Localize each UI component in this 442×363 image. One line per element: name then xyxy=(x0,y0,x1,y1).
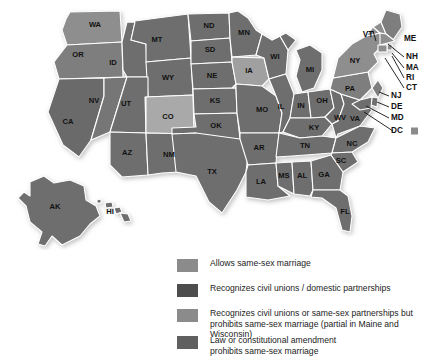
label-CO: CO xyxy=(162,112,173,121)
label-LA: LA xyxy=(256,177,267,186)
leader-RI xyxy=(392,56,404,78)
label-OK: OK xyxy=(210,121,222,130)
label-SD: SD xyxy=(205,45,216,54)
legend-swatch-civil-unions-prohibits xyxy=(177,309,198,322)
label-MN: MN xyxy=(238,28,250,37)
label-MI: MI xyxy=(306,65,314,74)
label-VA: VA xyxy=(350,114,361,123)
label-NE: NE xyxy=(207,71,218,80)
callout-NH: NH xyxy=(406,52,418,61)
label-FL: FL xyxy=(340,207,350,216)
callout-CT: CT xyxy=(406,83,417,92)
label-IN: IN xyxy=(297,101,305,110)
label-NV: NV xyxy=(89,96,100,105)
label-AL: AL xyxy=(297,171,307,180)
label-AR: AR xyxy=(254,143,265,152)
state-AK[interactable] xyxy=(18,176,100,246)
label-SC: SC xyxy=(336,156,347,165)
callout-RI: RI xyxy=(406,73,414,82)
label-UT: UT xyxy=(121,99,131,108)
leader-DE xyxy=(377,102,389,107)
label-TX: TX xyxy=(207,167,217,176)
label-NM: NM xyxy=(163,150,175,159)
legend-label-civil-unions: Recognizes civil unions / domestic partn… xyxy=(210,283,391,294)
label-HI: HI xyxy=(106,207,114,216)
label-WA: WA xyxy=(89,20,102,29)
legend-item-prohibits[interactable]: Law or constitutional amendment prohibit… xyxy=(177,335,336,356)
label-IL: IL xyxy=(278,102,285,111)
legend-label-allows: Allows same-sex marriage xyxy=(210,258,311,269)
callout-VT: VT xyxy=(363,30,373,39)
label-KS: KS xyxy=(210,96,221,105)
label-PA: PA xyxy=(345,84,356,93)
label-CA: CA xyxy=(63,117,74,126)
state-KY[interactable] xyxy=(283,117,332,138)
legend-swatch-prohibits xyxy=(177,336,198,349)
label-MT: MT xyxy=(152,35,163,44)
legend-item-allows[interactable]: Allows same-sex marriage xyxy=(177,258,311,272)
state-CA[interactable] xyxy=(48,78,104,157)
label-KY: KY xyxy=(309,123,320,132)
label-WV: WV xyxy=(334,113,347,122)
label-MS: MS xyxy=(278,171,289,180)
label-TN: TN xyxy=(300,141,310,150)
legend-label-prohibits: Law or constitutional amendment prohibit… xyxy=(210,335,336,356)
label-WY: WY xyxy=(162,73,174,82)
label-ID: ID xyxy=(109,58,117,67)
callout-ME: ME xyxy=(404,34,417,43)
label-AZ: AZ xyxy=(122,148,132,157)
legend: Allows same-sex marriage Recognizes civi… xyxy=(0,250,442,363)
label-ND: ND xyxy=(204,21,215,30)
label-GA: GA xyxy=(318,170,330,179)
state-CT[interactable] xyxy=(378,45,387,52)
label-NC: NC xyxy=(347,139,358,148)
callout-MA: MA xyxy=(406,63,419,72)
dc-swatch xyxy=(411,128,418,135)
us-map: WA OR CA NV ID MT WY UT CO AZ NM ND SD N… xyxy=(0,0,442,250)
label-MO: MO xyxy=(256,105,268,114)
legend-item-civil-unions[interactable]: Recognizes civil unions / domestic partn… xyxy=(177,283,391,297)
callout-NJ: NJ xyxy=(391,91,401,100)
label-NY: NY xyxy=(350,56,361,65)
label-OR: OR xyxy=(72,50,84,59)
callout-MD: MD xyxy=(391,113,404,122)
label-OH: OH xyxy=(316,96,327,105)
choropleth-figure: WA OR CA NV ID MT WY UT CO AZ NM ND SD N… xyxy=(0,0,442,363)
state-NJ[interactable] xyxy=(372,80,383,98)
state-HI[interactable] xyxy=(97,199,131,222)
label-IA: IA xyxy=(245,66,253,75)
callout-DE: DE xyxy=(391,102,403,111)
legend-swatch-civil-unions xyxy=(177,284,198,297)
label-AK: AK xyxy=(50,202,61,211)
map-svg: WA OR CA NV ID MT WY UT CO AZ NM ND SD N… xyxy=(0,0,442,250)
legend-swatch-allows xyxy=(177,259,198,272)
label-WI: WI xyxy=(270,52,279,61)
callout-DC: DC xyxy=(391,126,403,135)
